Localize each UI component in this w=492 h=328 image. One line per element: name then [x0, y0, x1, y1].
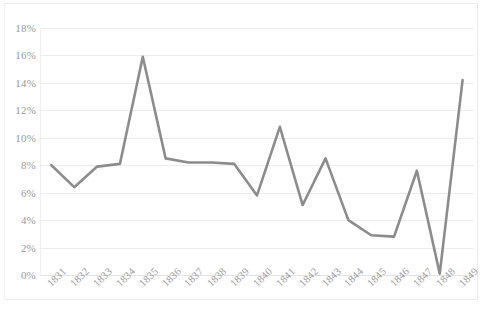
line-series [40, 28, 474, 275]
chart-figure: 0%2%4%6%8%10%12%14%16%18% 18311832183318… [0, 0, 492, 328]
y-tick-label: 8% [0, 159, 36, 171]
y-tick-label: 0% [0, 269, 36, 281]
y-tick-label: 12% [0, 104, 36, 116]
y-tick-label: 4% [0, 214, 36, 226]
series-1-polyline [51, 57, 462, 274]
y-tick-label: 6% [0, 187, 36, 199]
y-axis-tick-labels: 0%2%4%6%8%10%12%14%16%18% [0, 28, 36, 275]
y-tick-label: 16% [0, 49, 36, 61]
x-axis-tick-labels: 1831183218331834183518361837183818391840… [40, 281, 474, 321]
plot-area [40, 28, 474, 275]
figure-border-right [477, 3, 478, 299]
y-tick-label: 18% [0, 22, 36, 34]
figure-caption [0, 316, 492, 328]
y-tick-label: 2% [0, 242, 36, 254]
y-tick-label: 10% [0, 132, 36, 144]
y-tick-label: 14% [0, 77, 36, 89]
figure-border-top [4, 3, 478, 4]
